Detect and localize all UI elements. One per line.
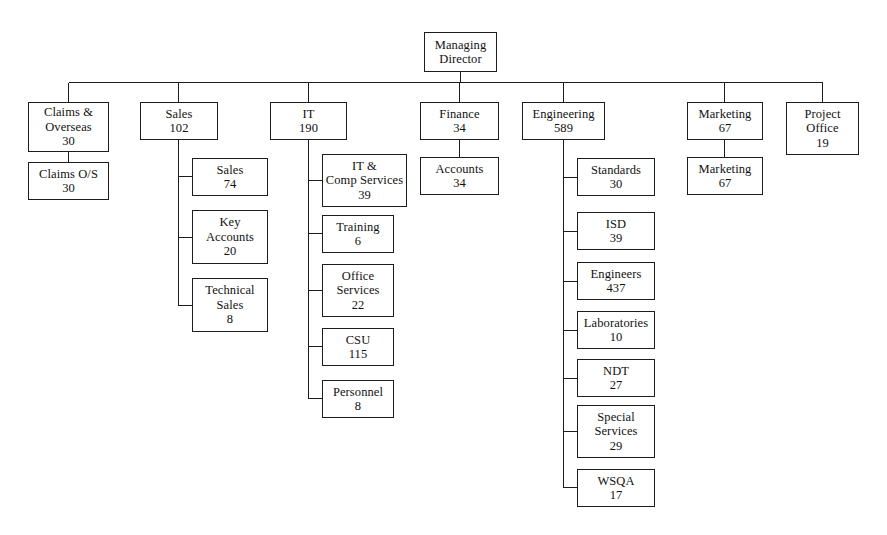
node-wsqa[interactable]: WSQA 17	[577, 469, 655, 507]
node-count: 30	[610, 177, 623, 192]
node-it-and-comp-services[interactable]: IT & Comp Services 39	[322, 154, 407, 207]
node-count: 39	[358, 188, 371, 203]
node-label: Project Office	[804, 107, 840, 136]
node-label: Claims & Overseas	[44, 105, 93, 134]
node-ndt[interactable]: NDT 27	[577, 359, 655, 397]
node-label: Personnel	[333, 385, 383, 400]
node-count: 39	[610, 231, 623, 246]
node-count: 67	[719, 176, 732, 191]
node-label: Marketing	[699, 162, 752, 177]
node-personnel[interactable]: Personnel 8	[322, 380, 394, 418]
node-count: 190	[299, 121, 318, 136]
node-managing-director[interactable]: Managing Director	[424, 32, 497, 72]
node-label: Engineering	[532, 107, 594, 122]
node-engineers[interactable]: Engineers 437	[577, 262, 655, 300]
node-label: Standards	[591, 163, 641, 178]
node-special-services[interactable]: Special Services 29	[577, 405, 655, 458]
node-it-department[interactable]: IT 190	[270, 102, 347, 140]
node-training[interactable]: Training 6	[322, 215, 394, 253]
organisation-chart: Managing Director Claims & Overseas 30 C…	[0, 0, 887, 535]
node-label: Special Services	[594, 410, 637, 439]
node-count: 30	[62, 181, 75, 196]
node-count: 589	[554, 121, 573, 136]
node-label: Marketing	[699, 107, 752, 122]
node-label: Accounts	[435, 162, 483, 177]
node-csu[interactable]: CSU 115	[322, 328, 394, 366]
node-label: CSU	[346, 333, 371, 348]
node-marketing-department[interactable]: Marketing 67	[687, 102, 763, 140]
node-key-accounts[interactable]: Key Accounts 20	[192, 210, 268, 264]
node-count: 29	[610, 439, 623, 454]
node-count: 19	[816, 136, 829, 151]
node-project-office[interactable]: Project Office 19	[786, 102, 859, 155]
node-label: Managing Director	[435, 38, 486, 67]
node-label: Technical Sales	[205, 283, 254, 312]
node-label: Finance	[439, 107, 479, 122]
node-count: 34	[453, 121, 466, 136]
node-count: 74	[224, 177, 237, 192]
node-claims-and-overseas[interactable]: Claims & Overseas 30	[28, 102, 109, 152]
node-isd[interactable]: ISD 39	[577, 212, 655, 250]
node-count: 8	[227, 312, 233, 327]
node-label: IT	[303, 107, 315, 122]
node-count: 8	[355, 399, 361, 414]
node-count: 27	[610, 378, 623, 393]
node-label: IT & Comp Services	[326, 159, 403, 188]
node-label: Training	[336, 220, 379, 235]
node-sales-sub[interactable]: Sales 74	[192, 158, 268, 196]
node-count: 30	[62, 134, 75, 149]
connector-lines	[0, 0, 887, 535]
node-count: 10	[610, 330, 623, 345]
node-claims-os[interactable]: Claims O/S 30	[28, 162, 109, 200]
node-label: ISD	[606, 217, 626, 232]
node-label: Claims O/S	[39, 167, 98, 182]
node-laboratories[interactable]: Laboratories 10	[577, 311, 655, 349]
node-finance-department[interactable]: Finance 34	[420, 102, 499, 140]
node-office-services[interactable]: Office Services 22	[322, 264, 394, 317]
node-count: 34	[453, 176, 466, 191]
node-label: WSQA	[597, 474, 634, 489]
node-standards[interactable]: Standards 30	[577, 158, 655, 196]
node-label: Sales	[217, 163, 244, 178]
node-count: 20	[224, 244, 237, 259]
node-label: NDT	[603, 364, 629, 379]
node-accounts[interactable]: Accounts 34	[420, 157, 499, 195]
node-technical-sales[interactable]: Technical Sales 8	[192, 278, 268, 332]
node-sales-department[interactable]: Sales 102	[140, 102, 218, 140]
node-count: 17	[610, 488, 623, 503]
node-label: Key Accounts	[206, 215, 254, 244]
node-count: 102	[169, 121, 188, 136]
node-label: Sales	[166, 107, 193, 122]
node-count: 437	[606, 281, 625, 296]
node-engineering-department[interactable]: Engineering 589	[522, 102, 605, 140]
node-label: Engineers	[591, 267, 642, 282]
node-count: 22	[352, 298, 365, 313]
node-label: Laboratories	[584, 316, 648, 331]
node-count: 115	[349, 347, 368, 362]
node-marketing-sub[interactable]: Marketing 67	[687, 157, 763, 195]
node-count: 6	[355, 234, 361, 249]
node-label: Office Services	[336, 269, 379, 298]
node-count: 67	[719, 121, 732, 136]
